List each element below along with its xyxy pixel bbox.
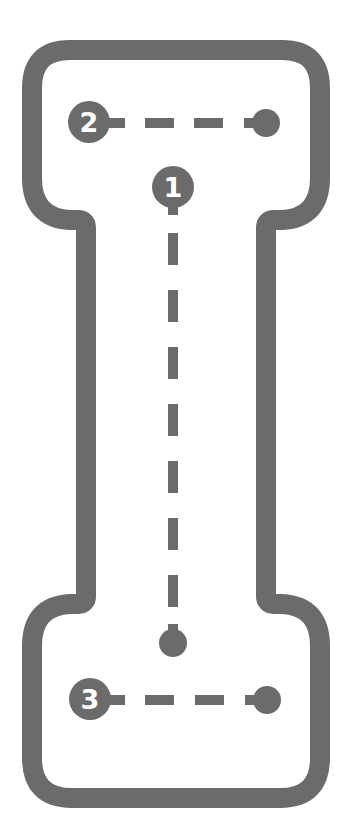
guide-stroke-3: 3 [69, 678, 281, 720]
dash [168, 347, 178, 379]
end-dot-icon [159, 629, 187, 657]
dash [168, 461, 178, 493]
dash [194, 118, 223, 128]
dash [195, 695, 224, 705]
start-marker-1-label: 1 [164, 172, 183, 203]
guide-stroke-2: 2 [68, 101, 280, 143]
dash [108, 118, 125, 128]
dash [168, 290, 178, 322]
start-marker-2-label: 2 [80, 107, 99, 138]
dash [168, 233, 178, 265]
dash [168, 518, 178, 550]
letter-i-tracing-worksheet: 2 1 3 [0, 0, 351, 827]
guide-stroke-1: 1 [152, 166, 194, 657]
dash [145, 118, 174, 128]
dash [168, 575, 178, 607]
dash [145, 695, 174, 705]
start-marker-3-label: 3 [81, 684, 100, 715]
end-dot-icon [253, 686, 281, 714]
end-dot-icon [252, 109, 280, 137]
dash [168, 404, 178, 436]
